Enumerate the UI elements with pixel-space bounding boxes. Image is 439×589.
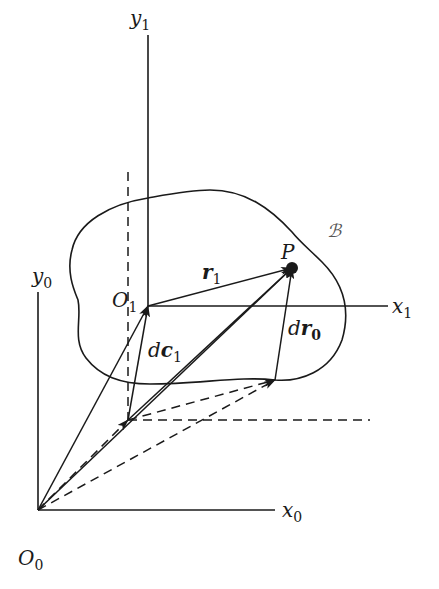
label-P: P bbox=[281, 242, 294, 262]
label-O1: O1 bbox=[112, 290, 137, 314]
label-dc1: dc1 bbox=[148, 340, 182, 364]
label-y0: y0 bbox=[32, 266, 52, 290]
label-r1: r1 bbox=[202, 262, 221, 286]
diagram: y1 x1 y0 x0 O1 O0 P r1 dc1 dr0 ℬ bbox=[0, 0, 439, 589]
rigid-body-outline bbox=[70, 190, 346, 384]
label-body-B: ℬ bbox=[327, 222, 341, 240]
label-x1: x1 bbox=[392, 296, 412, 320]
label-x0: x0 bbox=[282, 500, 302, 524]
diagram-canvas bbox=[0, 0, 439, 589]
label-y1: y1 bbox=[130, 8, 150, 32]
label-dr0: dr0 bbox=[288, 318, 321, 342]
label-O0: O0 bbox=[18, 548, 43, 572]
